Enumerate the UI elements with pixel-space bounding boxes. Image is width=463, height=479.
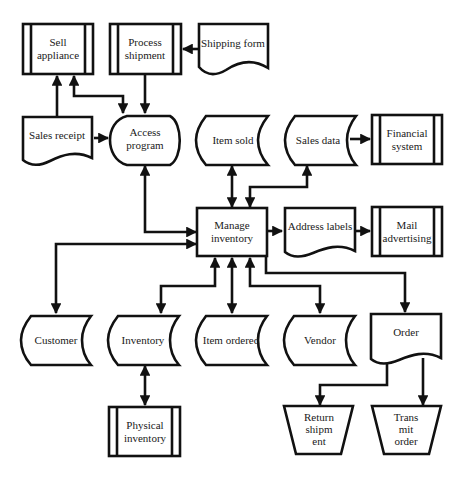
node-label: Sales data bbox=[296, 134, 340, 146]
node-vendor[interactable]: Vendor bbox=[284, 316, 355, 365]
node-transmit-order[interactable]: Trans mit order bbox=[372, 406, 441, 454]
node-shipping-form[interactable]: Shipping form bbox=[199, 24, 268, 74]
node-label: Order bbox=[393, 326, 419, 338]
node-label: Vendor bbox=[304, 334, 336, 346]
node-inventory[interactable]: Inventory bbox=[108, 316, 179, 365]
node-customer[interactable]: Customer bbox=[21, 316, 91, 365]
node-label: Physical bbox=[126, 419, 163, 431]
node-label: Item ordered bbox=[203, 334, 260, 346]
node-label: Inventory bbox=[122, 334, 165, 346]
node-label: system bbox=[392, 140, 423, 152]
node-label: Access bbox=[129, 126, 160, 138]
node-label: Mail bbox=[397, 219, 418, 231]
edge-access-sellappliance bbox=[74, 76, 123, 113]
node-label: Sales receipt bbox=[29, 129, 85, 141]
node-item-sold[interactable]: Item sold bbox=[196, 116, 268, 165]
node-address-labels[interactable]: Address labels bbox=[285, 208, 355, 256]
node-process-shipment[interactable]: Process shipment bbox=[110, 24, 181, 74]
node-label: Return bbox=[304, 411, 334, 423]
node-label: Address labels bbox=[288, 220, 352, 232]
node-label: inventory bbox=[124, 432, 167, 444]
node-label: Sell bbox=[49, 36, 66, 48]
node-label: advertising bbox=[383, 232, 432, 244]
flowchart-canvas: Sell appliance Process shipment Shipping… bbox=[0, 0, 463, 479]
node-label: program bbox=[126, 139, 164, 151]
node-label: shipm bbox=[306, 423, 333, 435]
node-label: Customer bbox=[35, 334, 78, 346]
node-financial-system[interactable]: Financial system bbox=[372, 115, 442, 164]
node-access-program[interactable]: Access program bbox=[110, 116, 180, 165]
node-label: Process bbox=[128, 36, 162, 48]
edge-customer-manageinventory bbox=[56, 244, 196, 313]
node-physical-inventory[interactable]: Physical inventory bbox=[109, 407, 180, 456]
edge-salesdata-manageinventory bbox=[250, 166, 307, 207]
node-return-shipment[interactable]: Return shipm ent bbox=[284, 406, 353, 454]
node-label: Trans bbox=[394, 411, 419, 423]
node-label: Shipping form bbox=[201, 37, 265, 49]
node-label: order bbox=[394, 435, 418, 447]
node-label: Manage bbox=[214, 219, 250, 231]
node-label: Financial bbox=[387, 127, 428, 139]
node-sell-appliance[interactable]: Sell appliance bbox=[23, 24, 93, 74]
edge-vendor-manageinventory bbox=[250, 258, 320, 313]
edge-access-manageinventory bbox=[145, 166, 196, 232]
node-label: mit bbox=[399, 423, 414, 435]
edge-order-return bbox=[320, 362, 387, 405]
edge-inventory-manageinventory bbox=[161, 258, 215, 313]
node-mail-advertising[interactable]: Mail advertising bbox=[372, 207, 442, 256]
node-label: shipment bbox=[125, 49, 165, 61]
node-sales-receipt[interactable]: Sales receipt bbox=[23, 117, 92, 165]
edge-manage-order bbox=[266, 257, 405, 312]
node-label: Item sold bbox=[212, 134, 254, 146]
node-manage-inventory[interactable]: Manage inventory bbox=[197, 208, 267, 256]
node-label: ent bbox=[312, 435, 325, 447]
node-label: appliance bbox=[37, 49, 79, 61]
node-order[interactable]: Order bbox=[371, 314, 441, 363]
node-label: inventory bbox=[211, 232, 254, 244]
node-sales-data[interactable]: Sales data bbox=[285, 116, 356, 165]
node-item-ordered[interactable]: Item ordered bbox=[196, 316, 267, 365]
